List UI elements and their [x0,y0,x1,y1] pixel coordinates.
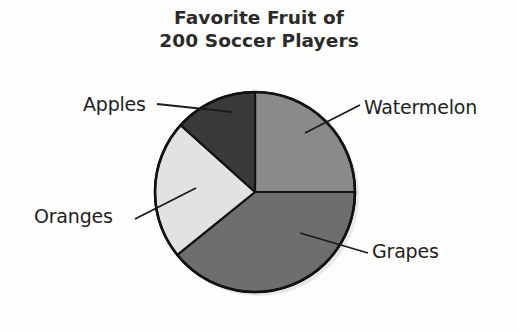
pie-label-grapes: Grapes [372,240,439,262]
pie-label-apples: Apples [83,93,146,115]
pie-label-oranges: Oranges [34,205,113,227]
pie-graphic [0,0,518,332]
pie-label-watermelon: Watermelon [364,96,477,118]
pie-chart-figure: Favorite Fruit of 200 Soccer Players App… [0,0,518,332]
pie-slice-watermelon [255,92,355,192]
